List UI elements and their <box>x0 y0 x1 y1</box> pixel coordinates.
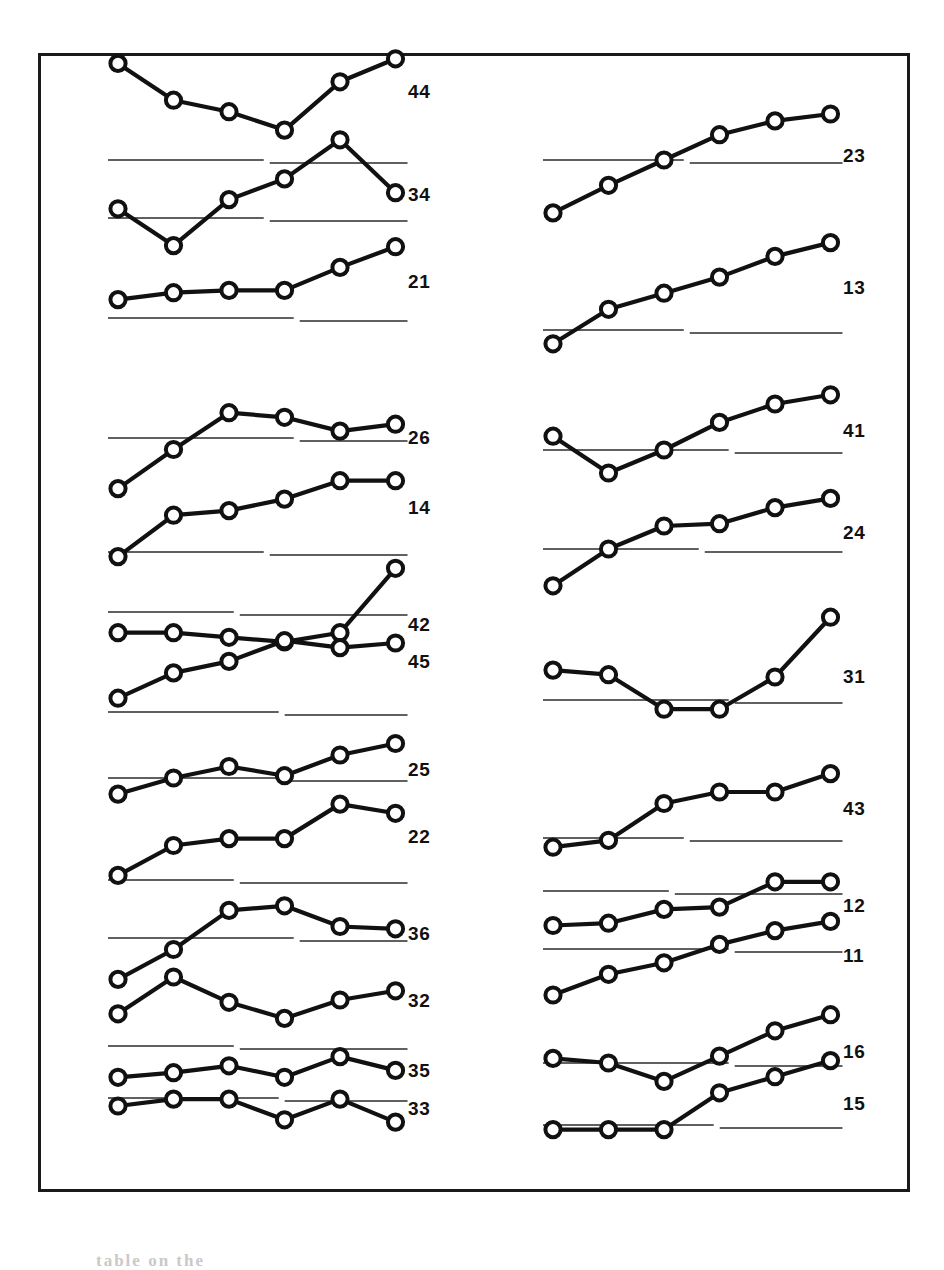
panel-label-25: 25 <box>408 760 430 779</box>
panel-label-16: 16 <box>843 1042 865 1061</box>
panel-label-13: 13 <box>843 278 865 297</box>
panel-label-36: 36 <box>408 924 430 943</box>
panel-label-22: 22 <box>408 827 430 846</box>
panel-label-41: 41 <box>843 421 865 440</box>
panel-label-11: 11 <box>843 946 864 965</box>
panel-label-15: 15 <box>843 1094 865 1113</box>
panel-label-44: 44 <box>408 82 430 101</box>
clipped-caption: table on the <box>96 1252 516 1270</box>
panel-label-31: 31 <box>843 667 865 686</box>
panel-label-34: 34 <box>408 185 430 204</box>
panel-label-43: 43 <box>843 799 865 818</box>
panel-label-26: 26 <box>408 428 430 447</box>
panel-label-23: 23 <box>843 146 865 165</box>
panel-label-45: 45 <box>408 652 430 671</box>
panel-label-14: 14 <box>408 498 430 517</box>
figure-border <box>38 53 910 1192</box>
panel-label-35: 35 <box>408 1061 430 1080</box>
panel-label-12: 12 <box>843 896 865 915</box>
panel-label-42: 42 <box>408 615 430 634</box>
scanned-page: 4434212614424525223632353323134124314312… <box>0 0 944 1270</box>
panel-label-21: 21 <box>408 272 430 291</box>
panel-label-33: 33 <box>408 1099 430 1118</box>
panel-label-24: 24 <box>843 523 865 542</box>
panel-label-32: 32 <box>408 991 430 1010</box>
